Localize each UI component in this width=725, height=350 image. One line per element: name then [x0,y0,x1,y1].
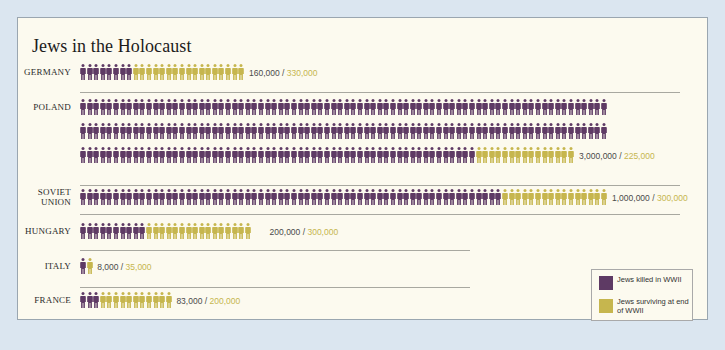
person-icon [337,147,344,163]
person-icon [113,223,120,239]
person-icon [225,147,232,163]
person-icon [311,189,318,205]
person-icon [245,99,252,115]
person-icon [113,64,120,80]
person-icon [186,64,193,80]
person-icon [324,189,331,205]
country-values: 8,000 / 35,000 [97,262,151,272]
person-icon [443,147,450,163]
person-icon [542,99,549,115]
person-icon [106,223,113,239]
person-icon [232,223,239,239]
person-icon [133,292,140,308]
person-icon [469,147,476,163]
person-icon [561,123,568,139]
person-icon [344,189,351,205]
person-icon [331,123,338,139]
person-icon [172,99,179,115]
person-icon [205,99,212,115]
person-icon [133,123,140,139]
person-icon [298,99,305,115]
person-icon [601,99,608,115]
person-icon [429,189,436,205]
person-icon [166,123,173,139]
person-icon [80,189,87,205]
person-icon [357,99,364,115]
person-icon [397,99,404,115]
person-icon [489,189,496,205]
person-icon [423,189,430,205]
person-icon [80,64,87,80]
person-icon [153,292,160,308]
person-icon [245,223,252,239]
person-icon [416,99,423,115]
person-icon [344,123,351,139]
person-icon [601,189,608,205]
person-icon [153,64,160,80]
person-icon [179,99,186,115]
person-icon [278,147,285,163]
person-icon [80,99,87,115]
person-icon [199,64,206,80]
person-icon [172,223,179,239]
person-icon [212,189,219,205]
person-icon [133,189,140,205]
person-icon [100,147,107,163]
person-icon [364,147,371,163]
person-icon [509,189,516,205]
person-icon [575,189,582,205]
person-icon [311,123,318,139]
person-icon [324,123,331,139]
person-icon [476,189,483,205]
person-icon [251,99,258,115]
country-label: FRANCE [18,295,71,305]
person-icon [93,123,100,139]
person-icon [120,292,127,308]
person-icon [377,123,384,139]
person-icon [146,292,153,308]
person-icon [225,64,232,80]
person-icon [179,123,186,139]
person-icon [436,99,443,115]
person-icon [410,99,417,115]
country-values: 160,000 / 330,000 [249,68,318,78]
person-icon [87,123,94,139]
person-icon [535,189,542,205]
person-icon [528,99,535,115]
person-icon [251,123,258,139]
person-icon [588,123,595,139]
person-icon [238,223,245,239]
icon-row [80,147,575,163]
person-icon [390,99,397,115]
person-icon [304,189,311,205]
country-values: 3,000,000 / 225,000 [579,151,655,161]
person-icon [317,147,324,163]
person-icon [548,123,555,139]
person-icon [344,99,351,115]
person-icon [218,223,225,239]
person-icon [166,292,173,308]
person-icon [87,258,94,274]
person-icon [462,123,469,139]
person-icon [548,147,555,163]
person-icon [311,99,318,115]
person-icon [218,123,225,139]
person-icon [271,123,278,139]
person-icon [126,123,133,139]
person-icon [436,123,443,139]
person-icon [278,189,285,205]
person-icon [278,99,285,115]
person-icon [120,189,127,205]
person-icon [205,223,212,239]
person-icon [238,189,245,205]
person-icon [594,99,601,115]
person-icon [251,147,258,163]
person-icon [324,147,331,163]
person-icon [311,147,318,163]
person-icon [555,189,562,205]
person-icon [515,147,522,163]
person-icon [370,99,377,115]
icon-row [80,223,251,239]
person-icon [120,223,127,239]
person-icon [159,123,166,139]
